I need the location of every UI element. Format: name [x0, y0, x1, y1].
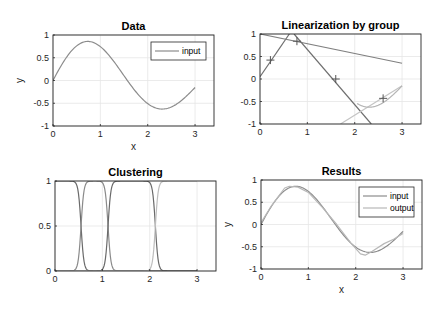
y-tick-label: -0.5 [33, 98, 49, 108]
y-tick-label: -1 [248, 119, 256, 129]
x-tick-label: 2 [145, 129, 150, 139]
y-tick-label: 1 [251, 29, 256, 39]
y-tick-label: 1 [44, 30, 49, 40]
y-tick-label: -0.5 [240, 97, 256, 107]
x-tick-label: 0 [50, 129, 55, 139]
x-tick-label: 0 [258, 272, 263, 282]
y-tick-label: 0 [252, 220, 257, 230]
legend-label-input: input [182, 46, 201, 56]
y-tick-label: 0.5 [38, 221, 51, 231]
y-tick-label: 0.5 [243, 52, 256, 62]
chart-title: Results [322, 165, 362, 177]
subplot-data: 0123-1-0.500.51Dataxyinput [14, 20, 214, 152]
y-tick-label: 1 [252, 175, 257, 185]
x-tick-label: 1 [98, 129, 103, 139]
chart-title: Clustering [108, 166, 162, 178]
y-tick-label: 0.5 [244, 197, 257, 207]
y-tick-label: 1 [46, 176, 51, 186]
y-tick-label: 0.5 [36, 53, 49, 63]
x-tick-label: 0 [52, 274, 57, 284]
x-axis-label: x [339, 284, 344, 295]
y-tick-label: 0 [251, 74, 256, 84]
y-tick-label: 0 [46, 266, 51, 276]
subplot-results: 0123-1-0.500.51Resultsxyinputoutput [222, 165, 422, 295]
x-tick-label: 3 [400, 127, 405, 137]
legend: inputoutput [359, 187, 414, 217]
legend-label-output: output [390, 203, 414, 213]
subplot-linearization: 0123-1-0.500.51Linearization by group [240, 19, 421, 137]
x-tick-label: 1 [100, 274, 105, 284]
x-tick-label: 3 [193, 129, 198, 139]
chart-title: Data [122, 20, 147, 32]
x-tick-label: 2 [353, 272, 358, 282]
chart-title: Linearization by group [282, 19, 400, 31]
y-axis-label: y [222, 222, 233, 227]
legend: input [151, 42, 206, 60]
x-tick-label: 0 [257, 127, 262, 137]
x-tick-label: 2 [352, 127, 357, 137]
x-axis-label: x [131, 141, 136, 152]
x-tick-label: 1 [305, 127, 310, 137]
x-tick-label: 3 [401, 272, 406, 282]
legend-label-input: input [390, 191, 409, 201]
x-tick-label: 2 [147, 274, 152, 284]
y-tick-label: -0.5 [241, 242, 257, 252]
figure: 0123-1-0.500.51Dataxyinput0123-1-0.500.5… [0, 0, 444, 312]
subplot-clustering: 012300.51Clustering [38, 166, 216, 284]
x-tick-label: 1 [306, 272, 311, 282]
y-tick-label: 0 [44, 76, 49, 86]
y-tick-label: -1 [249, 264, 257, 274]
y-axis-label: y [14, 78, 25, 83]
x-tick-label: 3 [195, 274, 200, 284]
y-tick-label: -1 [41, 121, 49, 131]
